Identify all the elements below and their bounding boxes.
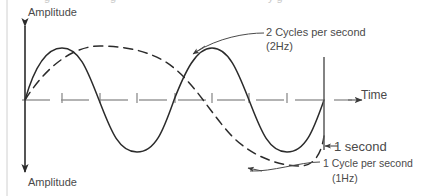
time-axis-label: Time [361, 89, 387, 103]
waveform-frequency-diagram: g g y g [0, 0, 434, 196]
annotation-2hz-line2: (2Hz) [266, 40, 293, 53]
annotation-one-second: 1 second [334, 140, 387, 155]
annotation-2hz-line1: 2 Cycles per second [266, 26, 366, 39]
amplitude-top-label: Amplitude [28, 6, 77, 19]
annotation-1hz-line1: 1 Cycle per second [323, 157, 413, 169]
annotation-1hz-line2: (1Hz) [332, 172, 358, 184]
amplitude-bottom-label: Amplitude [28, 176, 77, 189]
waveform-1hz-dashed [25, 46, 324, 166]
